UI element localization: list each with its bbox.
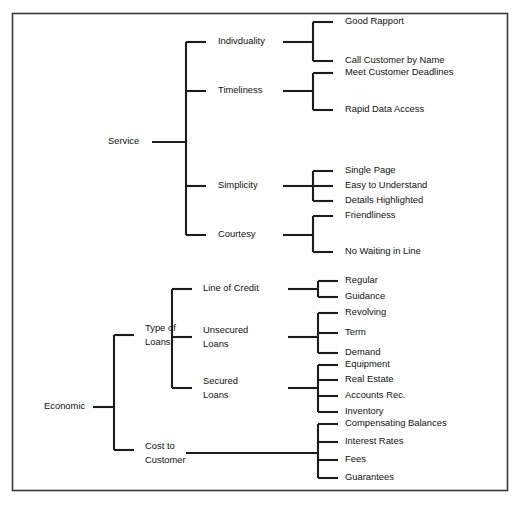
leaf-interest-rates: Interest Rates [345,435,404,446]
node-cost-to-customer-line1: Cost to [145,440,175,451]
leaf-good-rapport: Good Rapport [345,15,404,26]
node-simplicity: Simplicity [218,179,258,190]
leaf-term: Term [345,326,366,337]
node-individuality: Indivduality [218,35,265,46]
tree-diagram: Service Indivduality Timeliness Simplici… [0,0,519,505]
leaf-rapid-data-access: Rapid Data Access [345,103,425,114]
leaf-meet-customer-deadlines: Meet Customer Deadlines [345,66,454,77]
leaf-accounts-rec: Accounts Rec. [345,389,405,400]
node-line-of-credit: Line of Credit [203,282,259,293]
node-secured-loans-line2: Loans [203,389,229,400]
node-type-of-loans-line2: Loans [145,336,171,347]
leaf-easy-to-understand: Easy to Understand [345,179,427,190]
node-service: Service [108,135,139,146]
node-economic: Economic [44,400,85,411]
leaf-demand: Demand [345,346,380,357]
leaf-guarantees: Guarantees [345,471,394,482]
branch-service: Service Indivduality Timeliness Simplici… [108,15,454,256]
node-unsecured-loans-line2: Loans [203,338,229,349]
node-type-of-loans-line1: Type of [145,322,176,333]
leaf-compensating-balances: Compensating Balances [345,417,447,428]
leaf-friendliness: Friendliness [345,209,396,220]
branch-economic: Economic Type of Loans Line of Credit Un… [44,274,447,482]
leaf-fees: Fees [345,453,366,464]
leaf-real-estate: Real Estate [345,373,393,384]
diagram-page: Service Indivduality Timeliness Simplici… [0,0,519,505]
leaf-single-page: Single Page [345,164,396,175]
node-secured-loans-line1: Secured [203,375,238,386]
node-unsecured-loans-line1: Unsecured [203,324,248,335]
node-courtesy: Courtesy [218,228,256,239]
leaf-guidance: Guidance [345,290,385,301]
node-cost-to-customer-line2: Customer [145,454,186,465]
leaf-equipment: Equipment [345,358,390,369]
leaf-inventory: Inventory [345,405,384,416]
leaf-call-customer-by-name: Call Customer by Name [345,54,445,65]
leaf-revolving: Revolving [345,306,386,317]
node-timeliness: Timeliness [218,84,263,95]
leaf-details-highlighted: Details Highlighted [345,194,423,205]
leaf-regular: Regular [345,274,378,285]
leaf-no-waiting-in-line: No Waiting in Line [345,245,421,256]
